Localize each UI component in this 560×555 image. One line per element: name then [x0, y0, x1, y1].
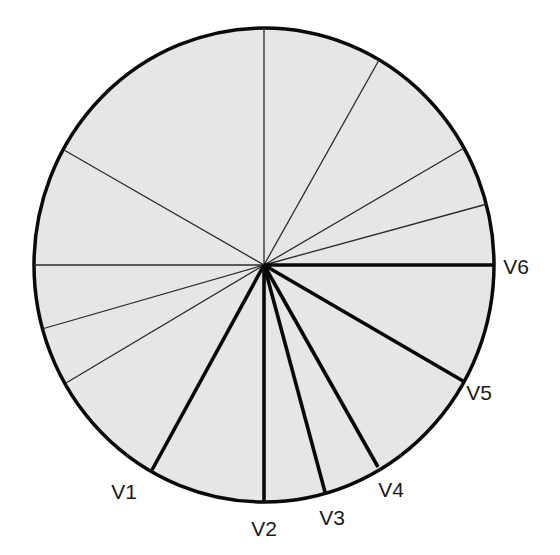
- lead-label-v5: V5: [466, 382, 492, 403]
- lead-label-v4: V4: [378, 479, 404, 500]
- lead-label-v3: V3: [319, 507, 345, 528]
- lead-label-v1: V1: [111, 481, 137, 502]
- precordial-lead-diagram: [0, 0, 560, 555]
- lead-label-v2: V2: [251, 518, 277, 539]
- lead-label-v6: V6: [503, 256, 529, 277]
